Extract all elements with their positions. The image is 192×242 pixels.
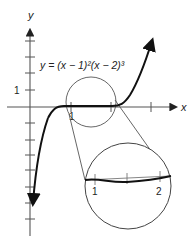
inset-tick-label-2: 2 <box>156 186 162 197</box>
magnified-inset: 1 2 <box>85 143 171 229</box>
x-axis: x 1 <box>7 101 187 122</box>
inset-tick-label-1: 1 <box>92 186 98 197</box>
magnify-region-circle <box>66 77 116 127</box>
y-tick-label: 1 <box>14 85 20 96</box>
x-axis-label: x <box>180 101 187 113</box>
function-curve-lower-branch <box>33 118 48 203</box>
equation-label: y = (x − 1)²(x − 2)³ <box>39 59 125 71</box>
y-axis: y 1 <box>14 9 35 236</box>
y-axis-label: y <box>27 9 35 21</box>
diagram: y 1 x 1 y = (x − 1)²(x − 2)³ 1 2 <box>0 0 192 242</box>
